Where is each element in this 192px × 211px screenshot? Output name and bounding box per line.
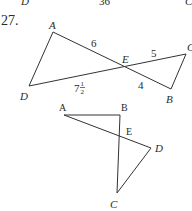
prev-label-36: 36: [99, 0, 111, 7]
length-label-de-whole: 7: [74, 82, 80, 94]
length-label-ae: 6: [91, 37, 97, 49]
vertex-label-b: B: [166, 93, 173, 105]
prev-label-c: C: [185, 0, 192, 7]
figure-1: A E C B D 6 5 4 7 1 2: [19, 19, 192, 105]
figure-2: A B E D C: [59, 102, 163, 210]
segment-ad: [29, 32, 53, 86]
geometry-figure-canvas: D 36 C 27. A E C B D 6 5 4 7 1 2 A B E D…: [0, 0, 192, 211]
length-label-ec: 5: [151, 47, 157, 59]
vertex-label-a-2: A: [59, 102, 67, 113]
segment-cd-2: [117, 148, 151, 193]
length-label-de-denominator: 2: [81, 88, 85, 96]
length-label-eb: 4: [138, 79, 144, 91]
problem-number: 27.: [1, 13, 19, 28]
length-label-de: 7 1 2: [74, 80, 85, 96]
vertex-label-e: E: [121, 53, 129, 65]
vertex-label-b-2: B: [121, 102, 128, 113]
segment-cb: [171, 54, 186, 89]
vertex-label-c-2: C: [110, 198, 118, 210]
length-label-de-numerator: 1: [81, 80, 85, 88]
segment-da-2: [64, 115, 151, 148]
vertex-label-d: D: [19, 90, 28, 102]
segment-bc-2: [117, 115, 120, 193]
vertex-label-e-2: E: [126, 126, 132, 137]
vertex-label-d-2: D: [154, 142, 163, 154]
vertex-label-c: C: [187, 41, 192, 53]
prev-label-d: D: [20, 0, 29, 7]
vertex-label-a: A: [48, 19, 56, 31]
